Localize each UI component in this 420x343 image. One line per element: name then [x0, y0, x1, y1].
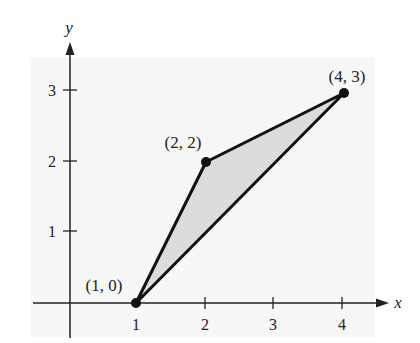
point-1-0: [131, 298, 141, 308]
x-tick-label-2: 2: [201, 316, 209, 333]
point-4-3: [339, 88, 349, 98]
x-tick-label-3: 3: [269, 316, 277, 333]
point-label-2-2: (2, 2): [165, 133, 202, 152]
y-tick-label-2: 2: [48, 153, 56, 170]
y-axis-label: y: [63, 18, 73, 37]
x-tick-label-4: 4: [338, 316, 346, 333]
x-axis-label: x: [393, 293, 402, 312]
point-2-2: [201, 157, 211, 167]
y-tick-label-1: 1: [48, 223, 56, 240]
x-axis-arrow-icon: [376, 299, 389, 308]
y-axis-arrow-icon: [66, 42, 75, 55]
triangle-chart: 1 2 3 4 1 2 3 x y (1, 0) (2, 2) (4, 3): [0, 0, 420, 343]
y-tick-label-3: 3: [48, 82, 56, 99]
point-label-4-3: (4, 3): [329, 67, 366, 86]
x-tick-label-1: 1: [132, 316, 140, 333]
point-label-1-0: (1, 0): [86, 276, 123, 295]
